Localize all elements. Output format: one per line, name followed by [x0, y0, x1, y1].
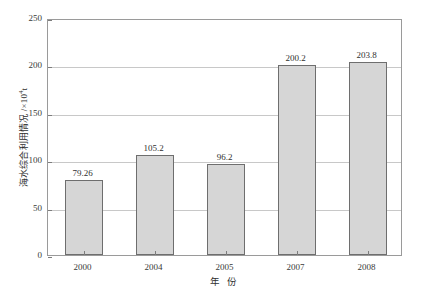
y-axis-tick-mark — [48, 210, 52, 211]
y-axis-tick-mark — [48, 20, 52, 21]
x-axis-tick-label: 2005 — [195, 263, 255, 272]
y-axis-tick-label: 250 — [2, 14, 42, 23]
x-axis-tick-label: 2008 — [337, 263, 397, 272]
bar — [349, 62, 387, 255]
y-axis-title-unit: t — [19, 88, 29, 91]
y-axis-title: 海水综合利用情况 /×104t — [14, 19, 28, 256]
y-axis-tick-label: 50 — [2, 204, 42, 213]
y-axis-tick-label: 0 — [2, 251, 42, 260]
bar-chart-figure: 海水综合利用情况 /×104t 050100150200250 20002004… — [0, 0, 421, 300]
bar-value-label: 79.26 — [48, 169, 118, 178]
x-axis-tick-mark — [368, 251, 369, 255]
bar-value-label: 203.8 — [332, 51, 402, 60]
y-axis-tick-mark — [48, 162, 52, 163]
bar-value-label: 200.2 — [261, 54, 331, 63]
x-axis-title: 年 份 — [47, 278, 402, 288]
bar — [207, 164, 245, 255]
y-axis-tick-mark — [48, 115, 52, 116]
y-axis-tick-mark — [48, 257, 52, 258]
x-axis-tick-mark — [297, 251, 298, 255]
bar — [278, 65, 316, 255]
y-axis-tick-mark — [48, 67, 52, 68]
y-axis-title-exponent: 4 — [17, 90, 24, 93]
x-axis-tick-label: 2000 — [53, 263, 113, 272]
x-axis-tick-mark — [226, 251, 227, 255]
bar — [65, 180, 103, 255]
bar — [136, 155, 174, 255]
y-axis-tick-label: 100 — [2, 156, 42, 165]
bar-value-label: 96.2 — [190, 153, 260, 162]
x-axis-tick-label: 2004 — [124, 263, 184, 272]
y-axis-tick-label: 150 — [2, 109, 42, 118]
bar-value-label: 105.2 — [119, 144, 189, 153]
x-axis-tick-mark — [155, 251, 156, 255]
x-axis-tick-mark — [84, 251, 85, 255]
y-axis-tick-label: 200 — [2, 61, 42, 70]
x-axis-tick-label: 2007 — [266, 263, 326, 272]
